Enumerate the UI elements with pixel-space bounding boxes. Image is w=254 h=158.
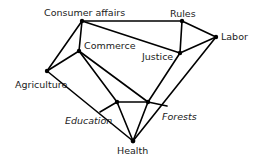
- node-rules: [180, 19, 184, 23]
- edge-rules-justice: [180, 21, 182, 53]
- label-consumer-affairs: Consumer affairs: [44, 7, 125, 18]
- node-health: [131, 139, 136, 144]
- label-justice: Justice: [141, 51, 173, 62]
- labels: Consumer affairs Commerce Agriculture Ru…: [15, 7, 248, 156]
- node-education: [115, 100, 119, 104]
- label-rules: Rules: [170, 8, 196, 19]
- edge-commerce-forests: [79, 51, 148, 102]
- node-forests: [146, 100, 150, 104]
- node-consumer-affairs: [80, 19, 84, 23]
- node-justice: [178, 51, 182, 55]
- label-health: Health: [117, 145, 148, 156]
- edge-rules-labor: [182, 21, 216, 37]
- edge-forests-health: [133, 102, 148, 141]
- label-commerce: Commerce: [84, 40, 136, 51]
- label-labor: Labor: [221, 31, 248, 42]
- label-forests: Forests: [162, 111, 197, 122]
- label-agriculture: Agriculture: [15, 79, 67, 90]
- node-commerce: [77, 49, 81, 53]
- node-agriculture: [45, 69, 49, 73]
- edge-consumer-affairs-agriculture: [47, 21, 82, 71]
- edge-commerce-education: [79, 51, 117, 102]
- education-label-leader: [100, 102, 117, 112]
- edge-commerce-agriculture: [47, 51, 79, 71]
- label-education: Education: [65, 115, 112, 126]
- network-diagram: Consumer affairs Commerce Agriculture Ru…: [0, 0, 254, 158]
- node-labor: [214, 35, 218, 39]
